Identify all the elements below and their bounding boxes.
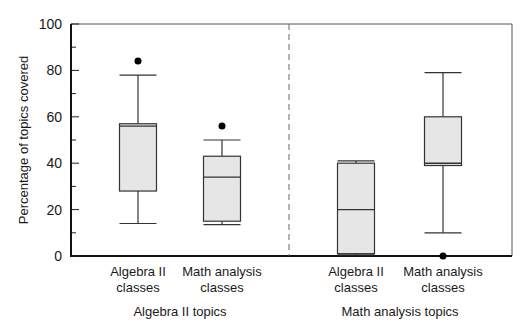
labels: Algebra IIclassesMath analysisclassesAlg… — [110, 264, 483, 319]
box-plot-item — [425, 73, 462, 260]
box-plot-item — [338, 161, 375, 255]
group-label: Math analysis topics — [341, 304, 459, 319]
y-tick-label: 0 — [54, 248, 62, 264]
category-label: classes — [116, 280, 160, 295]
box-plot-item — [204, 123, 241, 225]
y-tick-label: 20 — [46, 202, 62, 218]
category-label: Math analysis — [403, 264, 483, 279]
category-label: classes — [421, 280, 465, 295]
y-tick-label: 80 — [46, 62, 62, 78]
y-tick-label: 100 — [39, 16, 63, 32]
outlier-point — [219, 123, 226, 130]
group-label: Algebra II topics — [133, 304, 227, 319]
boxes — [120, 58, 462, 260]
category-label: classes — [200, 280, 244, 295]
y-tick-label: 60 — [46, 109, 62, 125]
iqr-box — [120, 124, 157, 191]
box-plot-item — [120, 58, 157, 224]
category-label: Math analysis — [182, 264, 262, 279]
box-plot-chart: 020406080100 Algebra IIclassesMath analy… — [0, 0, 524, 336]
category-label: classes — [334, 280, 378, 295]
outlier-point — [440, 253, 447, 260]
iqr-box — [204, 156, 241, 221]
y-axis-label: Percentage of topics covered — [16, 56, 31, 224]
category-label: Algebra II — [110, 264, 166, 279]
category-label: Algebra II — [328, 264, 384, 279]
iqr-box — [425, 117, 462, 166]
outlier-point — [135, 58, 142, 65]
y-tick-label: 40 — [46, 155, 62, 171]
iqr-box — [338, 163, 375, 253]
